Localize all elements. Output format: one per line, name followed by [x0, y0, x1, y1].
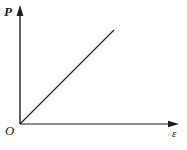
x-axis-label: ε: [172, 128, 176, 139]
data-line: [20, 30, 114, 124]
y-axis-label: P: [4, 5, 12, 18]
plot-area: [0, 0, 187, 150]
stress-strain-figure: P O ε: [0, 0, 187, 150]
y-axis-arrowhead: [17, 5, 24, 16]
origin-label: O: [5, 124, 14, 137]
